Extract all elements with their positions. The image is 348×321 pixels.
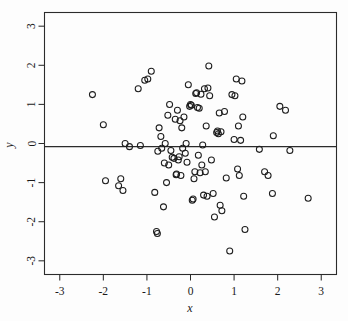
x-tick-label: 0 [188, 285, 194, 297]
data-point [179, 125, 185, 131]
data-point [227, 248, 233, 254]
x-axis-title: x [186, 301, 193, 315]
y-axis-ticks [39, 26, 45, 261]
x-tick-label: 3 [318, 285, 324, 297]
data-point [201, 192, 207, 198]
data-point [236, 173, 242, 179]
data-point [242, 227, 248, 233]
data-point [240, 114, 246, 120]
y-tick-label: 3 [26, 23, 38, 29]
data-point [152, 189, 158, 195]
y-axis-tick-labels: -3-2-10123 [26, 23, 38, 266]
data-point [210, 191, 216, 197]
data-point [206, 63, 212, 69]
data-point [241, 193, 247, 199]
x-tick-label: 1 [231, 285, 237, 297]
data-point [235, 166, 241, 172]
data-point [269, 191, 275, 197]
data-point [183, 141, 189, 147]
y-tick-label: 2 [26, 62, 38, 68]
plot-frame [45, 13, 337, 275]
data-point [160, 204, 166, 210]
data-point [233, 76, 239, 82]
data-point [174, 107, 180, 113]
data-point [283, 107, 289, 113]
data-point [211, 214, 217, 220]
data-point [165, 112, 171, 118]
data-point [158, 133, 164, 139]
data-point [89, 92, 95, 98]
data-point [154, 230, 160, 236]
x-axis-tick-labels: -3-2-10123 [55, 285, 324, 297]
data-point [181, 114, 187, 120]
data-point [265, 173, 271, 179]
data-point [155, 148, 161, 154]
data-point [205, 85, 211, 91]
data-point [185, 82, 191, 88]
data-point [207, 93, 213, 99]
data-point [137, 142, 143, 148]
x-tick-label: -2 [99, 285, 109, 297]
data-point [208, 157, 214, 163]
y-tick-label: 1 [26, 101, 38, 107]
data-point [239, 78, 245, 84]
data-point [168, 148, 174, 154]
data-point [182, 150, 188, 156]
data-point [262, 169, 268, 175]
data-point [195, 152, 201, 158]
data-point [164, 180, 170, 186]
data-point [167, 101, 173, 107]
data-point [120, 187, 126, 193]
x-tick-label: -1 [142, 285, 152, 297]
y-axis-title: y [2, 142, 16, 149]
data-point [219, 208, 225, 214]
data-point [287, 148, 293, 154]
data-point [148, 68, 154, 74]
y-tick-label: -2 [26, 217, 38, 227]
data-point [270, 133, 276, 139]
scatter-plot-figure: -3-2-10123 -3-2-10123 x y [0, 0, 348, 321]
y-tick-label: 0 [26, 140, 38, 146]
data-point [156, 125, 162, 131]
data-point [199, 162, 205, 168]
x-axis-ticks [60, 275, 321, 281]
data-point [184, 159, 190, 165]
x-tick-label: 2 [275, 285, 281, 297]
data-points [89, 63, 311, 254]
data-point [162, 141, 168, 147]
data-point [100, 122, 106, 128]
data-point [103, 178, 109, 184]
data-point [203, 123, 209, 129]
data-point [118, 176, 124, 182]
data-point [204, 193, 210, 199]
y-tick-label: -1 [26, 178, 38, 188]
data-point [277, 103, 283, 109]
data-point [223, 175, 229, 181]
data-point [305, 195, 311, 201]
x-tick-label: -3 [55, 285, 65, 297]
data-point [135, 86, 141, 92]
data-point [235, 123, 241, 129]
data-point [231, 137, 237, 143]
y-tick-label: -3 [26, 256, 38, 266]
data-point [238, 137, 244, 143]
data-point [191, 176, 197, 182]
data-point [256, 146, 262, 152]
plot-canvas: -3-2-10123 -3-2-10123 x y [0, 0, 348, 321]
